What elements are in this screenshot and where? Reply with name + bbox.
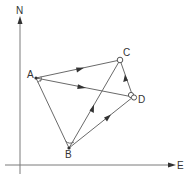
- north-label: N: [16, 5, 23, 16]
- edge-b-d: [69, 97, 133, 148]
- node-b: B: [65, 141, 74, 160]
- node-b-label: B: [65, 149, 72, 160]
- node-c-label: C: [123, 47, 130, 58]
- edge-a-b: [36, 78, 69, 148]
- edge-a-c-arrowhead-icon: [76, 68, 84, 73]
- edge-a-d-arrowhead-icon: [77, 84, 86, 89]
- node-a: A: [27, 69, 41, 83]
- diagram-canvas: N E A: [0, 0, 185, 181]
- edges: [36, 60, 133, 148]
- edge-b-c: [69, 60, 120, 148]
- edge-b-d-arrowhead-icon: [104, 115, 111, 122]
- node-a-label: A: [27, 69, 34, 80]
- node-d-label: D: [138, 94, 145, 105]
- nodes: A B C D: [27, 47, 145, 160]
- north-arrowhead-icon: [18, 16, 23, 24]
- node-d-circle-2-icon: [131, 95, 136, 100]
- east-label: E: [177, 160, 184, 171]
- node-c-circle-icon: [117, 57, 123, 63]
- east-arrowhead-icon: [168, 163, 176, 168]
- node-c: C: [117, 47, 130, 63]
- node-a-dot-icon: [34, 76, 37, 79]
